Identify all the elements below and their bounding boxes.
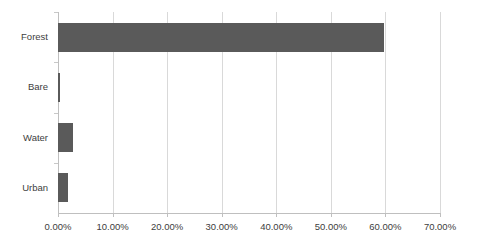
bar-water[interactable]	[58, 123, 73, 152]
x-axis-label: 30.00%	[192, 221, 252, 232]
bar-row	[58, 23, 440, 52]
y-axis-tick	[54, 163, 58, 164]
plot-area	[58, 12, 440, 213]
y-axis-label-bare: Bare	[0, 82, 48, 92]
x-axis-label: 50.00%	[301, 221, 361, 232]
x-axis-label: 0.00%	[28, 221, 88, 232]
x-axis-tick	[113, 213, 114, 217]
bar-forest[interactable]	[58, 23, 384, 52]
x-axis-label: 20.00%	[137, 221, 197, 232]
x-axis-line	[58, 213, 441, 214]
bar-row	[58, 73, 440, 102]
x-axis-tick	[331, 213, 332, 217]
bar-chart: ForestBareWaterUrban 0.00%10.00%20.00%30…	[0, 0, 483, 246]
y-axis-tick	[54, 113, 58, 114]
x-axis-label: 40.00%	[246, 221, 306, 232]
gridline-7000	[440, 12, 441, 213]
x-axis-label: 10.00%	[83, 221, 143, 232]
y-axis-tick	[54, 62, 58, 63]
y-axis-label-water: Water	[0, 133, 48, 143]
y-axis-category-labels: ForestBareWaterUrban	[0, 12, 58, 213]
y-axis-label-urban: Urban	[0, 183, 48, 193]
x-axis-tick	[167, 213, 168, 217]
x-axis-label: 70.00%	[410, 221, 470, 232]
bar-row	[58, 123, 440, 152]
x-axis-tick	[385, 213, 386, 217]
x-axis-tick	[440, 213, 441, 217]
bar-urban[interactable]	[58, 173, 68, 202]
x-axis-tick	[58, 213, 59, 217]
bar-row	[58, 173, 440, 202]
x-axis-label: 60.00%	[355, 221, 415, 232]
bar-bare[interactable]	[58, 73, 60, 102]
x-axis-tick	[276, 213, 277, 217]
x-axis-tick	[222, 213, 223, 217]
y-axis-label-forest: Forest	[0, 32, 48, 42]
y-axis-tick-top	[54, 12, 58, 13]
